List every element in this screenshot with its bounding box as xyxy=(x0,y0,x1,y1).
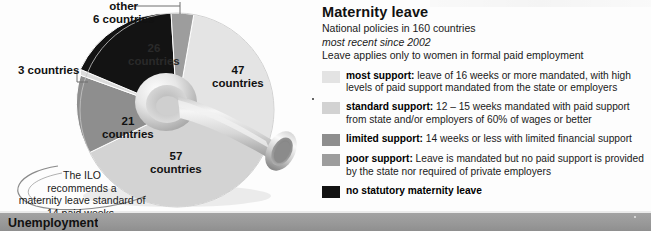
legend-label-limited-support: limited support: 14 weeks or less with l… xyxy=(346,133,632,145)
legend-swatch-no-statutory-leave xyxy=(322,186,340,198)
legend-swatch-poor-support xyxy=(322,154,340,166)
legend-term-most-support: most support: xyxy=(346,70,414,81)
legend-desc-limited-support: 14 weeks or less with limited financial … xyxy=(423,133,632,144)
legend-swatch-most-support xyxy=(322,71,340,83)
legend-item-no-statutory-leave: no statutory maternity leave xyxy=(322,185,651,198)
legend-term-poor-support: poor support: xyxy=(346,153,413,164)
pie-label-21-countries: 21 countries xyxy=(102,115,154,141)
panel-subtitle: National policies in 160 countries xyxy=(322,22,651,36)
pie-label-21-unit: countries xyxy=(102,128,154,140)
legend-item-most-support: most support: leave of 16 weeks or more … xyxy=(322,70,651,95)
pie-label-26-unit: countries xyxy=(128,55,180,67)
legend-term-no-statutory-leave: no statutory maternity leave xyxy=(346,185,482,196)
pie-label-other-value: 6 countries xyxy=(93,13,154,25)
pie-label-other-name: other xyxy=(109,0,138,12)
band-speck xyxy=(634,216,636,218)
legend-label-poor-support: poor support: Leave is mandated but no p… xyxy=(346,153,651,178)
pie-label-3-countries: 3 countries xyxy=(18,64,79,76)
next-section-title: Unemployment xyxy=(8,216,98,231)
pie-label-47-countries: 47 countries xyxy=(212,64,264,90)
pie-label-47-value: 47 xyxy=(231,64,244,76)
legend-item-poor-support: poor support: Leave is mandated but no p… xyxy=(322,153,651,178)
legend-swatch-standard-support xyxy=(322,102,340,114)
legend-term-limited-support: limited support: xyxy=(346,133,423,144)
legend-item-standard-support: standard support: 12 – 15 weeks mandated… xyxy=(322,101,651,126)
pie-label-26-value: 26 xyxy=(147,42,160,54)
infographic-page: 47 countries 57 countries 21 countries 2… xyxy=(0,0,651,231)
legend-swatch-limited-support xyxy=(322,134,340,146)
ilo-callout-line-3: maternity leave standard of xyxy=(19,194,146,206)
legend-item-limited-support: limited support: 14 weeks or less with l… xyxy=(322,133,651,146)
legend-label-most-support: most support: leave of 16 weeks or more … xyxy=(346,70,651,95)
panel-scope: Leave applies only to women in formal pa… xyxy=(322,49,651,63)
info-panel: Maternity leave National policies in 160… xyxy=(322,0,651,205)
panel-recency: most recent since 2002 xyxy=(322,36,651,50)
legend-label-standard-support: standard support: 12 – 15 weeks mandated… xyxy=(346,101,651,126)
legend-term-standard-support: standard support: xyxy=(346,101,433,112)
stray-speck xyxy=(312,98,314,100)
ilo-callout-line-1: The ILO xyxy=(63,169,101,181)
pie-chart: 47 countries 57 countries 21 countries 2… xyxy=(0,0,320,215)
legend-label-no-statutory-leave: no statutory maternity leave xyxy=(346,185,482,197)
ilo-callout-line-2: recommends a xyxy=(47,182,116,194)
pie-label-47-unit: countries xyxy=(212,77,264,89)
pie-label-21-value: 21 xyxy=(121,115,134,127)
pie-label-26-countries: 26 countries xyxy=(128,42,180,68)
legend: most support: leave of 16 weeks or more … xyxy=(322,70,651,198)
pie-label-other: other 6 countries xyxy=(93,0,154,26)
panel-title: Maternity leave xyxy=(322,4,651,20)
pie-label-57-value: 57 xyxy=(169,150,182,162)
